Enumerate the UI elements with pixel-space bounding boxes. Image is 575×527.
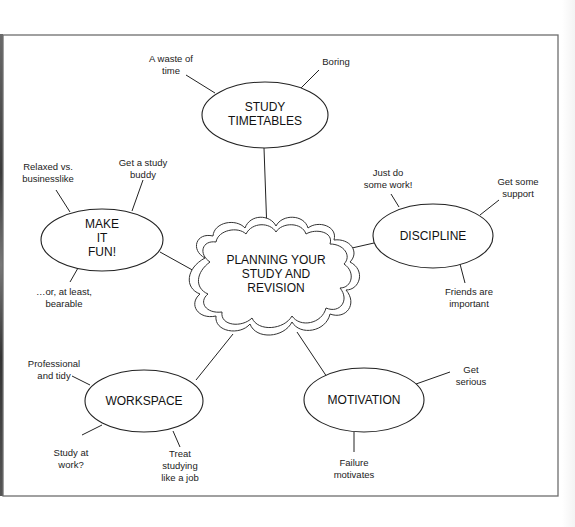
central-topic-line-3: REVISION bbox=[247, 281, 304, 295]
leaf-treat-job-2: studying bbox=[162, 460, 197, 471]
link-get-support bbox=[480, 200, 499, 215]
central-topic-line-1: PLANNING YOUR bbox=[226, 253, 325, 267]
leaf-get-serious-1: Get bbox=[463, 364, 479, 375]
leaf-treat-job-1: Treat bbox=[169, 448, 191, 459]
branch-motivation: MOTIVATION Get serious Failure motivates bbox=[304, 364, 487, 480]
leaf-friends-1: Friends are bbox=[445, 286, 493, 297]
leaf-waste-of-time-1: A waste of bbox=[149, 53, 193, 64]
leaf-bearable-2: bearable bbox=[46, 298, 83, 309]
link-study-buddy bbox=[132, 180, 143, 211]
link-center-motivation bbox=[297, 332, 327, 377]
branch-discipline: DISCIPLINE Just do some work! Get some s… bbox=[364, 167, 539, 309]
link-center-discipline bbox=[352, 243, 374, 248]
link-waste-of-time bbox=[186, 75, 215, 93]
leaf-professional-1: Professional bbox=[28, 358, 80, 369]
study-timetables-label-1: STUDY bbox=[245, 100, 286, 114]
leaf-waste-of-time-2: time bbox=[162, 65, 180, 76]
leaf-study-buddy-2: buddy bbox=[130, 169, 156, 180]
leaf-study-buddy-1: Get a study bbox=[119, 157, 168, 168]
leaf-relaxed-2: businesslike bbox=[22, 173, 74, 184]
link-treat-job bbox=[173, 431, 180, 447]
leaf-get-support-2: support bbox=[502, 188, 534, 199]
study-timetables-label-2: TIMETABLES bbox=[228, 114, 302, 128]
link-get-serious bbox=[416, 372, 450, 384]
mind-map-canvas: PLANNING YOUR STUDY AND REVISION STUDY T… bbox=[0, 0, 575, 527]
make-it-fun-label-1: MAKE bbox=[85, 217, 119, 231]
leaf-study-at-work-2: work? bbox=[57, 459, 83, 470]
branch-make-it-fun: MAKE IT FUN! Relaxed vs. businesslike Ge… bbox=[22, 157, 167, 309]
leaf-treat-job-3: like a job bbox=[161, 472, 199, 483]
central-cloud: PLANNING YOUR STUDY AND REVISION bbox=[189, 217, 359, 335]
motivation-label: MOTIVATION bbox=[328, 393, 401, 407]
leaf-just-do-work-1: Just do bbox=[373, 167, 404, 178]
leaf-boring: Boring bbox=[322, 56, 349, 67]
leaf-bearable-1: …or, at least, bbox=[36, 286, 92, 297]
link-boring bbox=[300, 70, 319, 89]
link-relaxed bbox=[56, 190, 70, 212]
discipline-label: DISCIPLINE bbox=[400, 229, 467, 243]
leaf-get-serious-2: serious bbox=[456, 376, 487, 387]
link-professional bbox=[72, 376, 90, 385]
link-just-do-work bbox=[391, 194, 399, 207]
central-topic-line-2: STUDY AND bbox=[242, 267, 311, 281]
link-friends bbox=[460, 264, 465, 283]
make-it-fun-label-3: FUN! bbox=[88, 245, 116, 259]
link-study-at-work bbox=[82, 425, 102, 435]
leaf-professional-2: and tidy bbox=[37, 370, 71, 381]
workspace-label: WORKSPACE bbox=[105, 394, 182, 408]
link-center-workspace bbox=[196, 334, 233, 380]
leaf-friends-2: important bbox=[449, 298, 489, 309]
leaf-get-support-1: Get some bbox=[497, 176, 538, 187]
leaf-relaxed-1: Relaxed vs. bbox=[23, 161, 73, 172]
make-it-fun-label-2: IT bbox=[97, 231, 108, 245]
branch-workspace: WORKSPACE Professional and tidy Study at… bbox=[28, 358, 203, 483]
leaf-failure-1: Failure bbox=[339, 457, 368, 468]
leaf-just-do-work-2: some work! bbox=[364, 179, 413, 190]
leaf-failure-2: motivates bbox=[334, 469, 375, 480]
link-center-make-it-fun bbox=[160, 252, 196, 272]
link-bearable bbox=[70, 268, 78, 282]
branch-study-timetables: STUDY TIMETABLES A waste of time Boring bbox=[149, 53, 350, 148]
leaf-study-at-work-1: Study at bbox=[54, 447, 89, 458]
